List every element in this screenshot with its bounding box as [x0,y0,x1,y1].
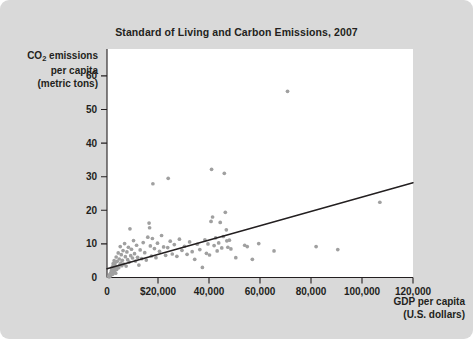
data-point [141,241,145,245]
data-point [147,221,151,225]
data-point [211,215,215,219]
data-point [149,244,153,248]
data-point [251,258,255,262]
data-point [220,246,224,250]
data-point [114,271,118,275]
data-point [201,266,205,270]
scatter-plot: 0102030405060 0$20,00040,00060,00080,000… [0,0,473,339]
data-point [121,249,125,253]
y-tick-label: 0 [91,272,97,283]
data-point [124,264,128,268]
data-point [166,246,170,250]
data-point [164,253,168,257]
y-tick-label: 10 [86,238,98,249]
y-tick-label: 40 [86,138,98,149]
x-tick-label: 60,000 [245,286,276,297]
data-point [114,255,118,259]
data-point [158,249,162,253]
y-tick-label: 30 [86,171,98,182]
data-point [172,243,176,247]
data-point [168,239,172,243]
data-point [128,227,132,231]
data-point [132,239,136,243]
data-point [198,248,202,252]
data-point [378,200,382,204]
data-point [229,247,233,251]
y-tick-label: 60 [86,70,98,81]
data-point [153,247,157,251]
data-point [162,245,166,249]
x-tick-label: 0 [104,286,110,297]
data-point [125,250,129,254]
data-point [146,235,150,239]
data-point [206,242,210,246]
data-point [234,256,238,260]
data-point [119,253,123,257]
data-point [208,253,212,257]
data-point [118,245,122,249]
data-point [127,245,131,249]
data-point [224,228,228,232]
data-point [212,244,216,248]
data-point [218,221,222,225]
data-point [143,251,147,255]
x-tick-label: 80,000 [296,286,327,297]
data-point [188,240,192,244]
y-tick-label: 20 [86,205,98,216]
data-point [160,234,164,238]
data-point [135,243,139,247]
data-point [215,249,219,253]
data-point [222,171,226,175]
data-point [120,259,124,263]
data-point [138,248,142,252]
data-point [137,263,141,267]
data-point [228,238,232,242]
data-point [175,254,179,258]
x-axis-ticks: 0$20,00040,00060,00080,000100,000120,000 [104,278,431,298]
x-tick-label: 40,000 [194,286,225,297]
data-point [170,252,174,256]
data-point [193,258,197,262]
y-tick-label: 50 [86,104,98,115]
data-point [136,255,140,259]
data-point [286,89,290,93]
data-point [272,249,276,253]
data-point [217,241,221,245]
figure-container: Standard of Living and Carbon Emissions,… [0,0,473,339]
data-point [178,237,182,241]
data-point [245,245,249,249]
data-point [190,250,194,254]
data-point [209,220,213,224]
x-tick-label: 120,000 [395,286,432,297]
data-point [151,237,155,241]
data-point [124,255,128,259]
data-point [180,248,184,252]
data-point [133,252,137,256]
data-point [336,248,340,252]
data-point [131,256,135,260]
data-point [257,242,261,246]
data-point [185,252,189,256]
data-point [223,210,227,214]
data-point [123,242,127,246]
data-point [156,241,160,245]
data-point [130,247,134,251]
y-axis-ticks: 0102030405060 [86,70,107,283]
data-point [151,182,155,186]
x-tick-label: $20,000 [140,286,177,297]
x-tick-label: 100,000 [344,286,381,297]
data-point [166,177,170,181]
data-point [210,167,214,171]
data-point [148,226,152,230]
data-point [314,245,318,249]
data-point [154,256,158,260]
